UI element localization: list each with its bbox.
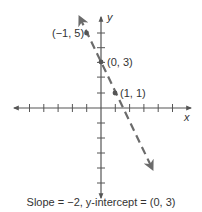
point-label-0-3: (0, 3) bbox=[107, 56, 133, 68]
point-neg1-5 bbox=[84, 31, 89, 36]
coordinate-plane: y x (−1, 5) (0, 3) (1, 1) bbox=[0, 0, 202, 212]
point-0-3 bbox=[99, 60, 104, 65]
point-label-1-1: (1, 1) bbox=[120, 87, 146, 99]
point-label-neg1-5: (−1, 5) bbox=[52, 27, 84, 39]
point-1-1 bbox=[113, 91, 118, 96]
y-axis-label: y bbox=[106, 11, 114, 23]
chart-caption: Slope = −2, y-intercept = (0, 3) bbox=[0, 196, 202, 208]
x-axis-label: x bbox=[183, 111, 190, 123]
